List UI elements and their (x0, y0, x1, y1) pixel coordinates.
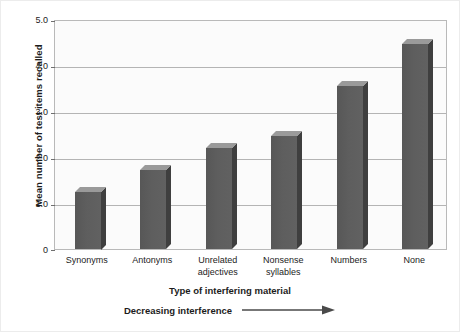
bar-front-face (75, 192, 101, 250)
bar-top-face (206, 143, 237, 148)
x-tick-label: Numbers (316, 255, 382, 267)
bar-front-face (402, 44, 428, 249)
annotation-row: Decreasing interference (0, 304, 460, 316)
bar-front-face (140, 170, 166, 249)
annotation-label: Decreasing interference (124, 305, 232, 316)
plot-area (54, 20, 447, 250)
bar-side-face (428, 39, 433, 249)
x-tick-label-line: Nonsense (251, 255, 317, 267)
bar-top-face (75, 187, 106, 192)
y-tick-label: 4.0 (18, 61, 48, 71)
y-tick-label: 2.0 (18, 153, 48, 163)
bar-front-face (206, 148, 232, 249)
y-tick-mark (51, 250, 55, 251)
bar (337, 86, 363, 249)
bar-top-face (140, 165, 171, 170)
x-tick-label-line: Unrelated (185, 255, 251, 267)
x-tick-label: None (382, 255, 448, 267)
bar-front-face (271, 136, 297, 249)
bar-side-face (363, 81, 368, 249)
bar-series (55, 21, 446, 249)
bar-side-face (101, 187, 106, 250)
x-tick-label-line: Antonyms (120, 255, 186, 267)
x-tick-label-line: None (382, 255, 448, 267)
x-tick-label: Antonyms (120, 255, 186, 267)
x-tick-label: Unrelatedadjectives (185, 255, 251, 278)
bar (140, 170, 166, 249)
x-tick-label-line: syllables (251, 267, 317, 279)
bar (206, 148, 232, 249)
bar-side-face (297, 131, 302, 249)
bar-side-face (166, 165, 171, 249)
x-axis-title: Type of interfering material (0, 285, 460, 296)
y-tick-label: 0 (18, 245, 48, 255)
y-axis-ticks: 01.02.03.04.05.0 (18, 0, 48, 332)
bar-front-face (337, 86, 363, 249)
chart-figure: Mean number of test items recalled 01.02… (0, 0, 460, 332)
x-tick-label: Synonyms (54, 255, 120, 267)
bar (402, 44, 428, 249)
x-tick-label: Nonsensesyllables (251, 255, 317, 278)
y-tick-label: 1.0 (18, 199, 48, 209)
x-tick-label-line: Synonyms (54, 255, 120, 267)
bar-side-face (232, 143, 237, 249)
x-tick-label-line: Numbers (316, 255, 382, 267)
x-tick-label-line: adjectives (185, 267, 251, 279)
right-arrow-icon (242, 304, 336, 316)
bar (75, 192, 101, 250)
bar-top-face (337, 81, 368, 86)
y-tick-label: 3.0 (18, 107, 48, 117)
y-tick-label: 5.0 (18, 15, 48, 25)
bar (271, 136, 297, 249)
